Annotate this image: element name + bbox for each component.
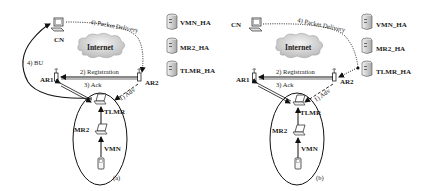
ack-arrow-line — [258, 86, 290, 103]
registration-label: 2) Registration — [80, 68, 120, 76]
tlmr-laptop-icon — [94, 94, 106, 104]
tlmr-ha-server-icon — [167, 61, 177, 77]
tlmr-ha-label: TLMR_HA — [376, 68, 411, 76]
bu-label: 4) BU — [27, 59, 43, 67]
mr2-ha-label: MR2_HA — [180, 44, 209, 52]
vmn-ha-server-icon — [167, 14, 177, 30]
tlmr-ha-server-icon — [362, 61, 372, 77]
ar2-label: AR2 — [340, 78, 354, 86]
vmn-label: VMN — [301, 145, 318, 153]
tlmr-label: TLMR — [300, 109, 322, 117]
mr2-label: MR2 — [74, 126, 90, 134]
ar2-label: AR2 — [145, 79, 159, 87]
mr2-laptop-icon — [293, 125, 305, 135]
panel-a-caption: (a) — [113, 174, 120, 182]
tlmr-label: TLMR — [104, 108, 126, 116]
adv-label: 1) Adv — [313, 86, 333, 103]
ack-label: 3) Ack — [84, 81, 102, 89]
mr2-label: MR2 — [272, 127, 288, 135]
tlmr-ha-junction — [357, 67, 360, 70]
cn-computer-icon — [51, 18, 64, 31]
ar1-antenna-icon — [253, 69, 257, 82]
ar2-antenna-icon — [138, 69, 142, 82]
vmn-phone-icon — [295, 158, 301, 169]
mr2-ha-server-icon — [167, 38, 177, 54]
ar1-antenna-icon — [55, 69, 59, 82]
vmn-ha-label: VMN_HA — [180, 19, 211, 27]
panel-a: CN Internet 4) Packet Delivery VMN_HA MR… — [23, 14, 215, 185]
ar1-label: AR1 — [40, 76, 54, 84]
mr2-laptop-icon — [95, 124, 107, 134]
ar2-antenna-icon — [333, 69, 337, 82]
mr2-ha-label: MR2_HA — [376, 45, 405, 53]
panel-b-caption: (b) — [316, 174, 324, 182]
cn-computer-icon — [249, 18, 262, 31]
vmn-ha-label: VMN_HA — [376, 21, 407, 29]
registration-label: 2) Registration — [276, 68, 316, 76]
vmn-ha-server-icon — [362, 14, 372, 30]
mobile-network-ellipse — [73, 93, 127, 185]
panel-b: CN Internet 4) Packet Delivery VMN_HA MR… — [231, 14, 411, 185]
internet-label: Internet — [285, 43, 312, 52]
vmn-label: VMN — [104, 145, 121, 153]
diagram-canvas: CN Internet 4) Packet Delivery VMN_HA MR… — [0, 0, 433, 191]
packet-delivery-label: 4) Packet Delivery — [297, 16, 347, 34]
tlmr-ha-label: TLMR_HA — [180, 67, 215, 75]
adv-label: 1) Adv — [118, 85, 138, 102]
tlmr-laptop-icon — [293, 95, 305, 105]
mobile-network-ellipse — [270, 93, 324, 185]
ar1-label: AR1 — [236, 76, 250, 84]
ack-label: 3) Ack — [276, 81, 294, 89]
vmn-phone-icon — [98, 158, 104, 169]
cn-label: CN — [54, 36, 64, 44]
cn-label: CN — [231, 21, 241, 29]
packet-delivery-label: 4) Packet Delivery — [90, 18, 140, 34]
internet-label: Internet — [87, 43, 114, 52]
packet-delivery-to-ar2 — [339, 68, 357, 77]
mr2-ha-server-icon — [362, 38, 372, 54]
